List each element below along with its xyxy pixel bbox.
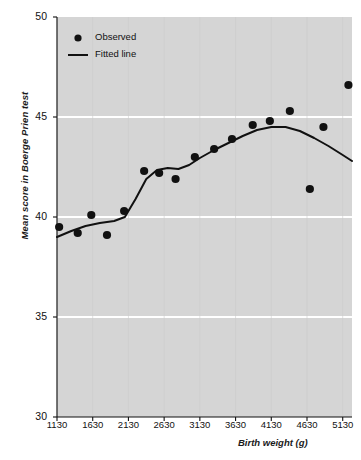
data-point: [306, 185, 314, 193]
legend-marker-observed: [74, 34, 81, 41]
data-point: [103, 231, 111, 239]
data-point: [266, 117, 274, 125]
x-tick-label: 1630: [73, 419, 113, 430]
data-point: [140, 167, 148, 175]
legend-label-observed: Observed: [95, 31, 136, 42]
x-tick-label: 2130: [108, 419, 148, 430]
data-point: [87, 211, 95, 219]
data-point: [120, 207, 128, 215]
data-point: [319, 123, 327, 131]
x-tick-label: 4130: [251, 419, 291, 430]
data-point: [210, 145, 218, 153]
y-tick-label: 35: [17, 310, 47, 322]
plot-area: [0, 0, 361, 460]
y-tick-label: 40: [17, 210, 47, 222]
x-tick-label: 3130: [180, 419, 220, 430]
data-point: [55, 223, 63, 231]
data-point: [74, 229, 82, 237]
legend-label-fitted-line: Fitted line: [95, 48, 136, 59]
data-point: [286, 107, 294, 115]
data-point: [191, 153, 199, 161]
data-point: [228, 135, 236, 143]
x-tick-label: 2630: [144, 419, 184, 430]
data-point: [249, 121, 257, 129]
chart-figure: Mean score in Boerge Prien test Birth we…: [0, 0, 361, 460]
x-tick-label: 3630: [216, 419, 256, 430]
y-tick-label: 50: [17, 10, 47, 22]
x-tick-label: 1130: [37, 419, 77, 430]
data-point: [171, 175, 179, 183]
data-point: [155, 169, 163, 177]
data-point: [344, 81, 352, 89]
x-tick-label: 5130: [323, 419, 361, 430]
x-tick-label: 4630: [287, 419, 327, 430]
y-tick-label: 45: [17, 110, 47, 122]
